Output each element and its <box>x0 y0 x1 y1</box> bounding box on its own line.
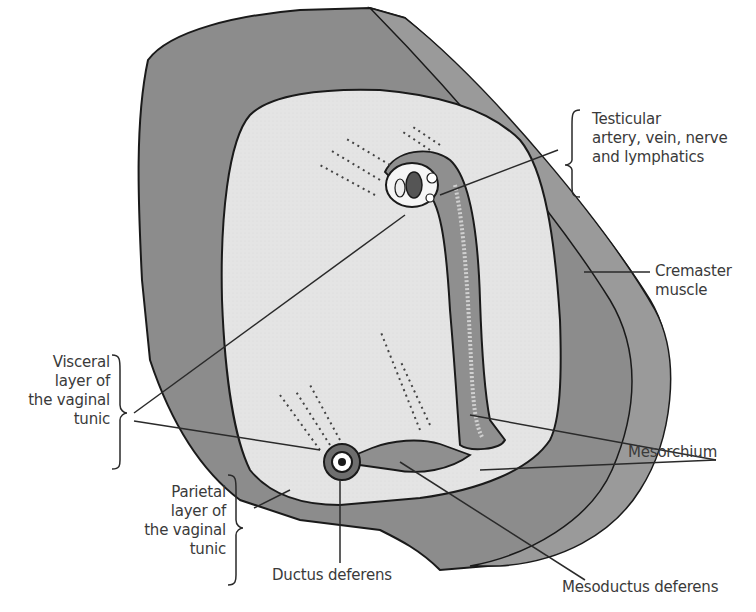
label-line: Visceral <box>0 353 110 372</box>
label-parietal-layer: Parietal layer of the vaginal tunic <box>110 483 226 559</box>
label-mesoductus-deferens: Mesoductus deferens <box>562 578 718 597</box>
label-ductus-deferens: Ductus deferens <box>272 566 392 585</box>
label-cremaster-muscle: Cremaster muscle <box>655 262 732 300</box>
label-line: tunic <box>110 540 226 559</box>
label-line: Testicular <box>592 110 728 129</box>
label-line: the vaginal <box>110 521 226 540</box>
label-visceral-layer: Visceral layer of the vaginal tunic <box>0 353 110 429</box>
label-line: and lymphatics <box>592 148 728 167</box>
label-testicular-vessels: Testicular artery, vein, nerve and lymph… <box>592 110 728 167</box>
label-line: Mesorchium <box>628 443 717 462</box>
label-line: the vaginal <box>0 391 110 410</box>
brace-testicular <box>565 110 580 197</box>
label-line: layer of <box>0 372 110 391</box>
label-line: Cremaster <box>655 262 732 281</box>
label-line: layer of <box>110 502 226 521</box>
label-mesorchium: Mesorchium <box>628 443 717 462</box>
label-line: Mesoductus deferens <box>562 578 718 597</box>
brace-visceral <box>112 355 127 469</box>
testicular-vessels <box>386 163 438 207</box>
label-line: Parietal <box>110 483 226 502</box>
label-line: artery, vein, nerve <box>592 129 728 148</box>
label-line: tunic <box>0 410 110 429</box>
label-line: Ductus deferens <box>272 566 392 585</box>
label-line: muscle <box>655 281 732 300</box>
